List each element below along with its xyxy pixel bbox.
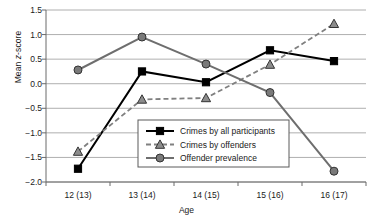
x-tick-label: 16 (17) (321, 190, 348, 200)
data-point-marker (330, 58, 337, 65)
chart-container: Mean z-score 1.51.00.50.0−0.5−1.0−1.5−2.… (0, 0, 373, 222)
legend-marker-swatch (156, 127, 163, 134)
data-point-marker (137, 95, 146, 103)
x-tick-label: 14 (15) (193, 190, 220, 200)
data-point-marker (266, 89, 274, 97)
legend-item-label: Crimes by all participants (180, 126, 275, 136)
data-point-marker (266, 47, 273, 54)
legend-item-label: Crimes by offenders (180, 140, 256, 150)
x-axis-tick-labels: 12 (13)13 (14)14 (15)15 (16)16 (17) (0, 186, 373, 204)
data-point-marker (202, 60, 210, 68)
data-point-marker (201, 93, 210, 101)
data-point-marker (138, 68, 145, 75)
data-point-marker (74, 66, 82, 74)
x-axis-label: Age (0, 205, 373, 215)
data-point-marker (138, 33, 146, 41)
data-point-marker (265, 60, 274, 68)
x-tick-label: 13 (14) (129, 190, 156, 200)
legend-item-label: Offender prevalence (180, 153, 257, 163)
data-point-marker (329, 19, 338, 27)
data-point-marker (330, 167, 338, 175)
data-point-marker (74, 165, 81, 172)
legend-marker-swatch (156, 154, 164, 162)
x-tick-label: 12 (13) (65, 190, 92, 200)
x-tick-label: 15 (16) (257, 190, 284, 200)
data-point-marker (202, 79, 209, 86)
